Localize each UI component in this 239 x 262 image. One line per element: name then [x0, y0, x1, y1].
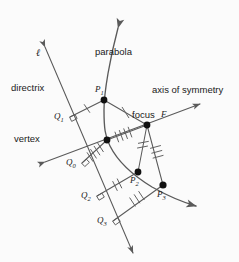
- q3-label: Q3: [97, 216, 107, 227]
- axis-of-symmetry-label: axis of symmetry: [152, 85, 223, 95]
- q0-label: Q0: [66, 158, 76, 169]
- diagram-canvas: [0, 0, 239, 262]
- segment-q3-p3: [113, 185, 163, 221]
- tick-marks-p1-focus: [122, 107, 129, 117]
- point-focus: [144, 122, 151, 129]
- vertex-label: vertex: [14, 134, 40, 144]
- line-l-label: ℓ: [36, 48, 40, 58]
- p2-label: P2: [130, 176, 139, 187]
- q2-label: Q2: [81, 191, 91, 202]
- focus-letter-label: F: [161, 110, 167, 119]
- parabola-diagram: ℓ directrix parabola axis of symmetry fo…: [0, 0, 239, 262]
- focus-label: focus: [132, 110, 155, 120]
- right-angle-marker-q2: [97, 193, 104, 200]
- point-p3: [159, 181, 166, 188]
- point-vertex: [104, 137, 111, 144]
- directrix-label: directrix: [11, 83, 44, 93]
- segment-p3-focus: [147, 125, 163, 185]
- tick-marks-q1-p1: [84, 105, 89, 113]
- segment-p2-focus: [138, 125, 147, 172]
- p3-label: P3: [157, 190, 166, 201]
- parabola-label: parabola: [95, 47, 132, 57]
- right-angle-marker-q0: [82, 159, 89, 166]
- tick-marks-p3-focus: [151, 146, 164, 159]
- axis-of-symmetry-segment: [45, 104, 200, 162]
- point-p1: [101, 97, 108, 104]
- p1-label: P1: [95, 85, 104, 96]
- q1-label: Q1: [54, 112, 64, 123]
